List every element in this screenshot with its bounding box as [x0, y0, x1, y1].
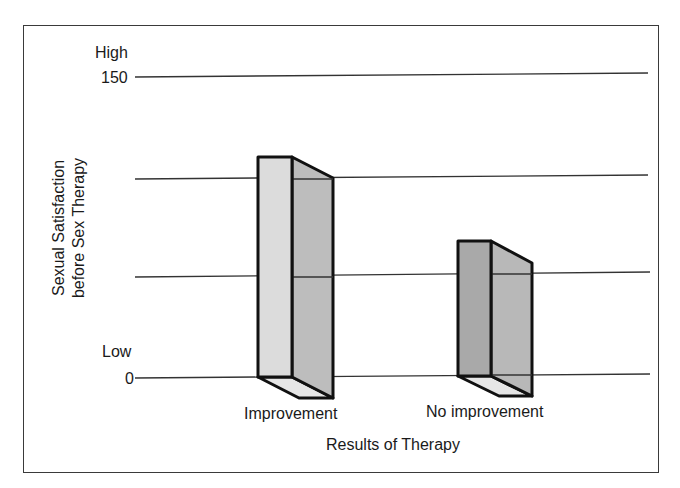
gridline-100 — [135, 175, 648, 179]
gridlines — [135, 73, 650, 378]
gridline-150 — [135, 73, 648, 77]
x-axis-title: Results of Therapy — [326, 437, 460, 453]
y-axis-title: Sexual Satisfaction before Sex Therapy — [49, 158, 89, 298]
y-tick-label-150: 150 — [101, 70, 128, 86]
y-axis-title-line-1: Sexual Satisfaction — [49, 158, 69, 298]
bar-improvement-front — [258, 157, 292, 377]
bar-improvement — [258, 157, 333, 398]
y-annotation-high: High — [95, 45, 128, 61]
x-category-label-improvement: Improvement — [244, 406, 337, 422]
y-axis-title-line-2: before Sex Therapy — [69, 158, 89, 298]
gridline-0 — [135, 374, 650, 378]
bar-no-improvement — [458, 241, 532, 396]
bar-no-improvement-front — [458, 241, 491, 376]
y-tick-label-0: 0 — [125, 371, 134, 387]
x-category-label-no-improvement: No improvement — [426, 404, 543, 420]
y-annotation-low: Low — [102, 344, 131, 360]
gridline-50 — [135, 272, 650, 277]
bar-no-improvement-side — [491, 241, 532, 396]
